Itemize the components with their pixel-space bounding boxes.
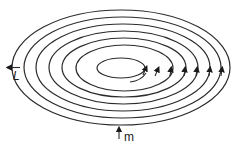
ring-arrow-icon xyxy=(155,69,158,76)
bottom-arrow-m: m xyxy=(119,129,134,144)
ring-4 xyxy=(49,31,198,104)
spiral-rings xyxy=(12,10,230,125)
ring-2 xyxy=(24,17,221,118)
ring-5 xyxy=(62,38,186,97)
label-L: L xyxy=(13,69,20,83)
ring-arrow-icon xyxy=(209,69,210,76)
left-arrow-L: L xyxy=(9,68,20,84)
ring-arrow-icon xyxy=(184,69,185,76)
label-m: m xyxy=(124,130,134,144)
ring-1 xyxy=(12,10,230,125)
spiral-diagram: L m xyxy=(0,0,239,150)
ring-7 xyxy=(97,58,145,78)
ring-6 xyxy=(76,45,173,91)
